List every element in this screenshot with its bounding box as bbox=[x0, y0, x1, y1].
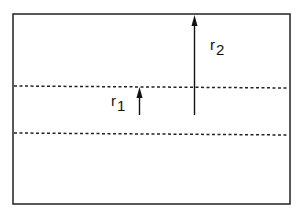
arrow-r2 bbox=[192, 15, 198, 115]
label-r2: r2 bbox=[210, 37, 224, 52]
arrowhead-r2-icon bbox=[192, 15, 198, 26]
arrow-r1 bbox=[137, 87, 143, 115]
label-r2-base: r bbox=[210, 36, 215, 53]
arrowhead-r1-icon bbox=[137, 87, 143, 98]
diagram-svg bbox=[0, 0, 304, 215]
label-r1: r1 bbox=[111, 93, 125, 108]
label-r1-subscript: 1 bbox=[117, 97, 125, 114]
label-r2-subscript: 2 bbox=[216, 41, 224, 58]
dotted-line-lower bbox=[14, 133, 289, 135]
label-r1-base: r bbox=[111, 92, 116, 109]
dotted-line-upper bbox=[14, 86, 289, 88]
diagram-canvas: r1 r2 bbox=[0, 0, 304, 215]
outer-frame bbox=[13, 14, 290, 204]
